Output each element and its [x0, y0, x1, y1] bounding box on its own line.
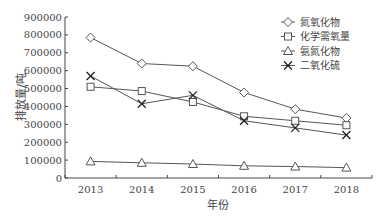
y-tick-label: 700000: [24, 47, 62, 58]
legend-label: 氮氧化物: [300, 16, 340, 28]
x-tick-label: 2013: [78, 184, 103, 195]
x-tick-label: 2018: [334, 184, 359, 195]
x-marker-icon: [87, 72, 95, 80]
diamond-marker-icon: [86, 33, 95, 42]
y-tick-label: 400000: [24, 101, 62, 112]
legend-label: 氨氮化物: [300, 45, 340, 57]
square-marker-icon: [138, 88, 145, 95]
series-triangle: [86, 157, 351, 171]
square-legend-icon: [285, 33, 292, 40]
x-tick-label: 2015: [180, 184, 205, 195]
legend: 氮氧化物化学需氧量氨氮化物二氧化硫: [281, 16, 350, 72]
y-tick-label: 100000: [24, 155, 62, 166]
y-tick-label: 0: [56, 173, 62, 184]
square-marker-icon: [343, 122, 350, 129]
y-tick-label: 600000: [24, 65, 62, 76]
series-square: [87, 83, 350, 128]
series-line: [91, 87, 347, 125]
series-line: [91, 76, 347, 135]
y-tick-label: 800000: [24, 29, 62, 40]
legend-item: 化学需氧量: [281, 30, 350, 42]
square-marker-icon: [189, 98, 196, 105]
x-axis-title: 年份: [207, 198, 229, 212]
legend-item: 氮氧化物: [281, 16, 340, 28]
diamond-legend-icon: [284, 18, 293, 27]
triangle-marker-icon: [86, 157, 95, 165]
x-tick-label: 2017: [283, 184, 308, 195]
series-x: [87, 72, 351, 139]
diamond-marker-icon: [342, 114, 351, 123]
x-tick-label: 2014: [129, 184, 154, 195]
legend-label: 二氧化硫: [300, 59, 340, 71]
line-chart: 0100000200000300000400000500000600000700…: [0, 0, 385, 217]
y-tick-label: 900000: [24, 12, 62, 23]
y-axis-title: 排放量/吨: [14, 73, 28, 121]
square-marker-icon: [292, 117, 299, 124]
legend-label: 化学需氧量: [300, 30, 350, 42]
diamond-marker-icon: [240, 88, 249, 97]
legend-item: 氨氮化物: [281, 45, 340, 57]
y-tick-label: 500000: [24, 83, 62, 94]
diamond-marker-icon: [137, 59, 146, 68]
square-marker-icon: [87, 83, 94, 90]
legend-item: 二氧化硫: [281, 59, 340, 71]
y-tick-label: 300000: [24, 119, 62, 130]
x-tick-label: 2016: [231, 184, 256, 195]
y-tick-label: 200000: [24, 137, 62, 148]
diamond-marker-icon: [188, 62, 197, 71]
series-line: [91, 161, 347, 167]
diamond-marker-icon: [291, 105, 300, 114]
